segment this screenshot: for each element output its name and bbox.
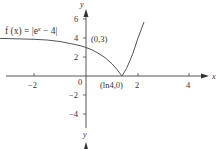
y-intercept-label: (0,3) (91, 34, 107, 44)
x-axis-label: x (211, 72, 216, 81)
x-tick-label: −2 (28, 80, 37, 90)
y-tick-label: 2 (74, 52, 78, 62)
x-intercept-label: (ln4,0) (100, 80, 123, 90)
y-tick-label: −4 (69, 109, 79, 119)
y-tick-label: −2 (69, 90, 78, 100)
x-axis-arrow-icon (201, 74, 209, 79)
origin-label: 0 (78, 77, 82, 87)
function-graph: x y y −2 2 4 0 6 4 2 −2 −4 f (x) = |ex −… (0, 0, 217, 149)
y-axis-label: y (79, 0, 84, 9)
x-tick-label: 2 (135, 80, 139, 90)
x-tick-label: 4 (186, 80, 191, 90)
lower-y-arrow-icon (84, 142, 88, 149)
y-tick-label: 6 (74, 14, 78, 24)
y-axis-arrow-icon (84, 9, 89, 17)
y-tick-label: 4 (74, 33, 79, 43)
function-label: f (x) = |ex − 4| (5, 25, 58, 38)
lower-y-label: y (82, 130, 87, 139)
